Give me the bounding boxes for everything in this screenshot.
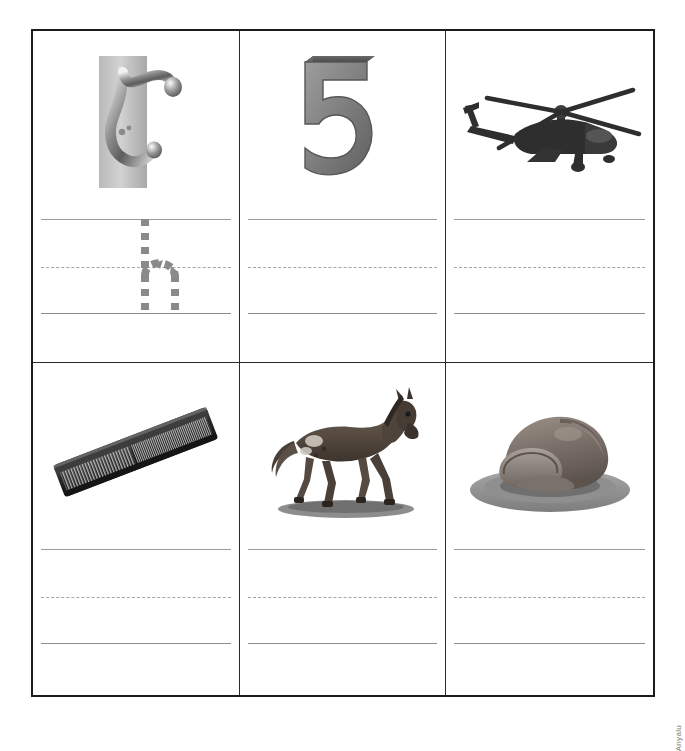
picture-area-4	[33, 367, 239, 539]
picture-area-5	[240, 367, 446, 539]
rule-top-6	[454, 549, 645, 550]
ham-icon	[464, 390, 636, 516]
writing-lines-3	[454, 219, 645, 313]
hair-comb-icon	[48, 385, 224, 521]
rule-bottom-5	[248, 643, 438, 644]
rule-top-2	[248, 219, 438, 220]
picture-area-6	[446, 367, 653, 539]
rule-bottom-4	[41, 643, 231, 644]
helicopter-icon	[457, 62, 643, 182]
rule-top-4	[41, 549, 231, 550]
rule-middle-dashed-3	[454, 267, 645, 268]
watermark-text: Anyalu	[674, 725, 683, 751]
rule-middle-dashed-2	[248, 267, 438, 268]
worksheet-cell-5[interactable]	[240, 363, 447, 695]
coat-hook-icon	[77, 46, 195, 198]
rule-middle-dashed-6	[454, 597, 645, 598]
rule-bottom-3	[454, 313, 645, 314]
horse-icon	[258, 383, 426, 523]
worksheet-cell-2[interactable]	[240, 31, 447, 363]
picture-area-2	[240, 31, 446, 213]
writing-lines-6	[454, 549, 645, 645]
house-number-five-icon	[287, 52, 397, 192]
picture-area-3	[446, 31, 653, 213]
rule-middle-dashed-4	[41, 597, 231, 598]
rule-middle-dashed-5	[248, 597, 438, 598]
writing-lines-5	[248, 549, 438, 645]
worksheet-cell-3[interactable]	[446, 31, 653, 363]
writing-lines-4	[41, 549, 231, 645]
worksheet-frame	[31, 29, 655, 697]
rule-bottom-6	[454, 643, 645, 644]
worksheet-grid	[33, 31, 653, 695]
rule-bottom-2	[248, 313, 438, 314]
rule-top-5	[248, 549, 438, 550]
writing-lines-2	[248, 219, 438, 313]
worksheet-cell-1[interactable]	[33, 31, 240, 363]
rule-top-3	[454, 219, 645, 220]
trace-letter-h[interactable]	[133, 219, 203, 315]
worksheet-cell-4[interactable]	[33, 363, 240, 695]
worksheet-cell-6[interactable]	[446, 363, 653, 695]
picture-area-1	[33, 31, 239, 213]
writing-lines-1	[41, 219, 231, 313]
